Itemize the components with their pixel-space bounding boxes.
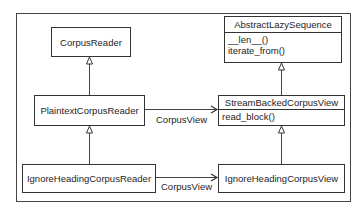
methods-compartment: __len__() iterate_from(): [225, 32, 341, 57]
inheritance-arrowhead-streambacked: [279, 126, 285, 133]
class-name: StreamBackedCorpusView: [219, 96, 344, 109]
methods-compartment: read_block(): [219, 109, 344, 122]
association-label-bottom: CorpusView: [161, 181, 212, 192]
class-stream-backed-corpus-view: StreamBackedCorpusView read_block(): [218, 95, 345, 126]
class-name: AbstractLazySequence: [225, 17, 341, 32]
class-ignore-heading-corpus-view: IgnoreHeadingCorpusView: [218, 164, 345, 193]
class-name: IgnoreHeadingCorpusReader: [27, 172, 151, 185]
association-label-top: CorpusView: [156, 114, 207, 125]
class-name: PlaintextCorpusReader: [40, 104, 138, 117]
inheritance-arrowhead-corpusreader: [87, 57, 93, 64]
method-iterate-from: iterate_from(): [228, 45, 338, 56]
method-len: __len__(): [228, 34, 338, 45]
class-plaintext-corpus-reader: PlaintextCorpusReader: [34, 95, 145, 126]
class-name: CorpusReader: [60, 36, 122, 49]
inheritance-arrowhead-plaintext: [87, 126, 93, 133]
class-corpus-reader: CorpusReader: [51, 27, 131, 57]
class-name: IgnoreHeadingCorpusView: [225, 172, 338, 185]
class-ignore-heading-corpus-reader: IgnoreHeadingCorpusReader: [22, 164, 156, 193]
method-read-block: read_block(): [222, 111, 341, 122]
inheritance-arrowhead-abstract: [279, 63, 285, 70]
class-abstract-lazy-sequence: AbstractLazySequence __len__() iterate_f…: [224, 16, 342, 63]
